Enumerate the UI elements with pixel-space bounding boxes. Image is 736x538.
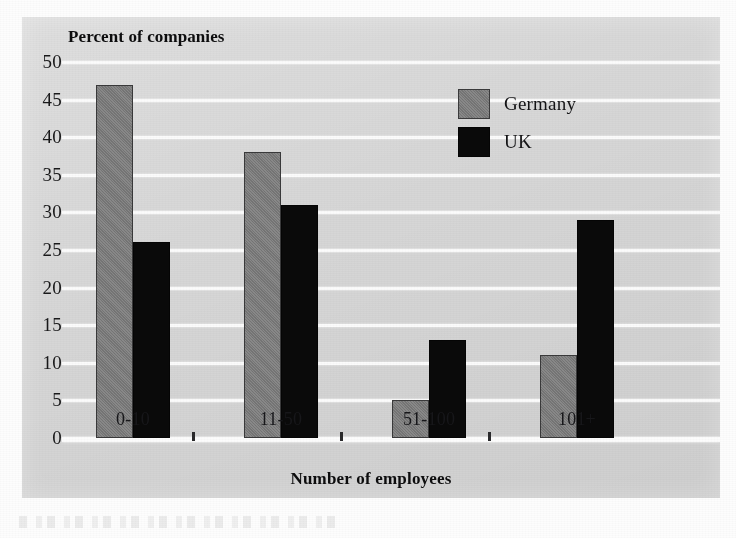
legend-label-germany: Germany: [504, 93, 576, 115]
x-tick-label: 0-10: [73, 409, 193, 430]
chart-panel: Percent of companies 5045403530252015105…: [22, 17, 720, 498]
legend-label-uk: UK: [504, 131, 532, 153]
scan-bleedthrough: [14, 516, 344, 528]
bar-group: [244, 62, 318, 438]
legend-swatch-germany: [458, 89, 490, 119]
x-minor-tick: [488, 432, 491, 441]
bar-uk-11-50: [281, 205, 318, 438]
legend-swatch-uk: [458, 127, 490, 157]
legend-item-uk: UK: [458, 123, 576, 161]
bar-germany-0-10: [96, 85, 133, 438]
x-tick-label: 51-100: [369, 409, 489, 430]
bar-uk-101+: [577, 220, 614, 438]
bar-group: [96, 62, 170, 438]
x-tick-label: 101+: [517, 409, 637, 430]
bar-germany-11-50: [244, 152, 281, 438]
bar-groups: 0-1011-5051-100101+: [22, 17, 720, 498]
bar-group: [392, 62, 466, 438]
figure-root: Percent of companies 5045403530252015105…: [0, 0, 736, 538]
legend: Germany UK: [458, 85, 576, 161]
legend-item-germany: Germany: [458, 85, 576, 123]
x-minor-tick: [340, 432, 343, 441]
x-minor-tick: [192, 432, 195, 441]
x-axis-title: Number of employees: [22, 469, 720, 489]
x-tick-label: 11-50: [221, 409, 341, 430]
